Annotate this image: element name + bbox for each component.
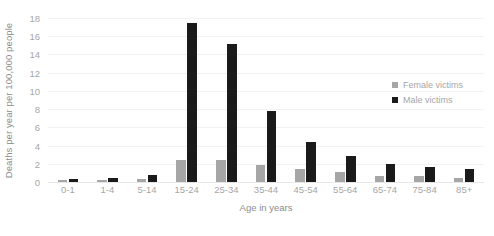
y-axis-title-text: Deaths per year per 100,000 people bbox=[4, 22, 15, 178]
bar-female bbox=[454, 178, 464, 182]
bar-female bbox=[176, 160, 186, 182]
bar-male bbox=[425, 167, 435, 182]
bar-group bbox=[246, 18, 286, 182]
male-swatch-icon bbox=[392, 97, 398, 103]
x-axis-tick-label: 5-14 bbox=[138, 184, 157, 195]
bar-group bbox=[167, 18, 207, 182]
x-axis-tick-label: 35-44 bbox=[254, 184, 278, 195]
bar-female bbox=[58, 180, 68, 182]
y-axis-tick-label: 0 bbox=[35, 177, 40, 188]
x-axis-tick-label: 1-4 bbox=[101, 184, 115, 195]
bar-male bbox=[69, 179, 79, 182]
legend-item-female: Female victims bbox=[392, 80, 488, 90]
bar-male bbox=[386, 164, 396, 182]
y-axis-tick-label: 10 bbox=[29, 85, 40, 96]
bar-group bbox=[48, 18, 88, 182]
bar-female bbox=[295, 169, 305, 182]
x-axis-tick-label: 25-34 bbox=[214, 184, 238, 195]
y-axis-tick-labels: 181614121086420 bbox=[18, 18, 44, 182]
y-axis-tick-label: 4 bbox=[35, 140, 40, 151]
bar-chart: Deaths per year per 100,000 people 18161… bbox=[0, 0, 494, 236]
y-axis-tick-label: 12 bbox=[29, 67, 40, 78]
legend: Female victims Male victims bbox=[392, 80, 488, 110]
x-axis-title: Age in years bbox=[48, 202, 484, 213]
x-axis-tick-label: 0-1 bbox=[61, 184, 75, 195]
bar-male bbox=[465, 169, 475, 182]
y-axis-tick-label: 18 bbox=[29, 13, 40, 24]
x-axis-tick-label: 75-84 bbox=[412, 184, 436, 195]
y-axis-tick-label: 14 bbox=[29, 49, 40, 60]
legend-label-female: Female victims bbox=[403, 80, 463, 90]
legend-item-male: Male victims bbox=[392, 95, 488, 105]
bar-female bbox=[335, 172, 345, 182]
bar-group bbox=[325, 18, 365, 182]
bar-male bbox=[306, 142, 316, 182]
bar-female bbox=[375, 176, 385, 182]
bar-female bbox=[414, 176, 424, 182]
bar-group bbox=[127, 18, 167, 182]
y-axis-tick-label: 16 bbox=[29, 31, 40, 42]
bar-male bbox=[108, 178, 118, 182]
bar-male bbox=[227, 44, 237, 182]
cropped-footer-text bbox=[0, 228, 494, 236]
bar-female bbox=[137, 179, 147, 182]
x-axis-tick-label: 55-64 bbox=[333, 184, 357, 195]
bar-male bbox=[346, 156, 356, 182]
x-axis-tick-label: 15-24 bbox=[175, 184, 199, 195]
y-axis-tick-label: 6 bbox=[35, 122, 40, 133]
bar-group bbox=[286, 18, 326, 182]
bar-male bbox=[187, 23, 197, 182]
y-axis-tick-label: 2 bbox=[35, 158, 40, 169]
x-axis-tick-label: 85+ bbox=[456, 184, 472, 195]
gridline bbox=[48, 182, 484, 183]
x-axis-tick-label: 65-74 bbox=[373, 184, 397, 195]
bar-group bbox=[88, 18, 128, 182]
bar-female bbox=[97, 180, 107, 182]
female-swatch-icon bbox=[392, 82, 398, 88]
bar-female bbox=[256, 165, 266, 182]
legend-label-male: Male victims bbox=[403, 95, 453, 105]
bar-female bbox=[216, 160, 226, 182]
y-axis-title: Deaths per year per 100,000 people bbox=[0, 0, 18, 200]
x-axis-tick-labels: 0-11-45-1415-2425-3435-4445-5455-6465-74… bbox=[48, 184, 484, 200]
x-axis-tick-label: 45-54 bbox=[293, 184, 317, 195]
bar-male bbox=[148, 175, 158, 182]
y-axis-tick-label: 8 bbox=[35, 104, 40, 115]
bar-group bbox=[207, 18, 247, 182]
bar-male bbox=[267, 111, 277, 182]
